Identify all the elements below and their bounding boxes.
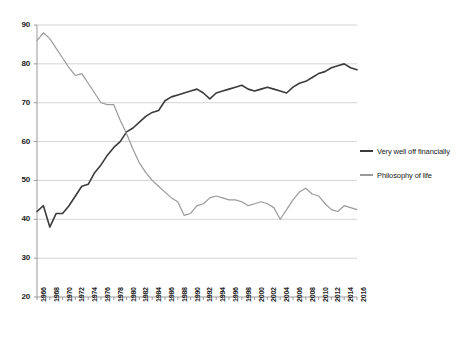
- y-axis-label-20: 20: [10, 292, 30, 301]
- y-axis-label-30: 30: [10, 253, 30, 262]
- x-axis-label-1976: 1976: [104, 287, 111, 302]
- legend-label-series-1: Philosophy of life: [377, 171, 432, 180]
- series-line-0: [37, 64, 357, 227]
- x-axis-label-1968: 1968: [53, 287, 60, 302]
- x-axis-label-1992: 1992: [206, 287, 213, 302]
- y-axis-label-60: 60: [10, 137, 30, 146]
- x-axis-label-1988: 1988: [181, 287, 188, 302]
- x-axis-label-2004: 2004: [283, 287, 290, 302]
- y-axis-label-50: 50: [10, 175, 30, 184]
- x-axis-label-1972: 1972: [78, 287, 85, 302]
- x-axis-label-1990: 1990: [194, 287, 201, 302]
- x-axis-label-1980: 1980: [130, 287, 137, 302]
- x-axis-label-1978: 1978: [117, 287, 124, 302]
- y-axis-label-90: 90: [10, 20, 30, 29]
- y-axis-label-70: 70: [10, 98, 30, 107]
- legend-item-philosophy-of-life: Philosophy of life: [360, 170, 474, 180]
- series-line-1: [37, 33, 357, 220]
- chart-legend: Very well off financially Philosophy of …: [360, 146, 474, 194]
- x-axis-label-2006: 2006: [296, 287, 303, 302]
- x-axis-label-1994: 1994: [219, 287, 226, 302]
- legend-swatch-series-0: [360, 150, 373, 152]
- line-chart: 2030405060708090 19661968197019721974197…: [0, 0, 474, 338]
- x-axis-label-2002: 2002: [270, 287, 277, 302]
- x-axis-label-2016: 2016: [360, 287, 367, 302]
- legend-label-series-0: Very well off financially: [377, 147, 450, 156]
- legend-swatch-series-1: [360, 174, 373, 176]
- y-axis-label-80: 80: [10, 59, 30, 68]
- x-axis-label-1984: 1984: [155, 287, 162, 302]
- x-axis-label-1966: 1966: [40, 287, 47, 302]
- x-axis-label-1996: 1996: [232, 287, 239, 302]
- y-axis-label-40: 40: [10, 214, 30, 223]
- x-axis-label-1974: 1974: [91, 287, 98, 302]
- x-axis-label-2014: 2014: [347, 287, 354, 302]
- legend-item-very-well-off-financially: Very well off financially: [360, 146, 474, 156]
- x-axis-label-2008: 2008: [309, 287, 316, 302]
- x-axis-label-1998: 1998: [245, 287, 252, 302]
- x-axis-label-1982: 1982: [142, 287, 149, 302]
- x-axis-label-1986: 1986: [168, 287, 175, 302]
- x-axis-label-2010: 2010: [322, 287, 329, 302]
- x-axis-label-2012: 2012: [334, 287, 341, 302]
- x-axis-label-2000: 2000: [258, 287, 265, 302]
- x-axis-label-1970: 1970: [66, 287, 73, 302]
